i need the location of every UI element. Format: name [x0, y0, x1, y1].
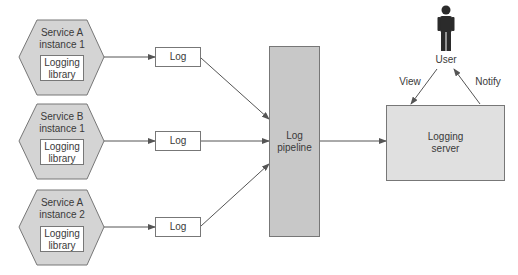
library-1-line2: library: [41, 69, 83, 81]
arrow-log1-pipeline: [201, 58, 269, 119]
service-1-title-line1: Service A: [19, 27, 105, 39]
log-pipeline-label: Log pipeline: [270, 130, 319, 154]
logging-library-box-2: Logging library: [40, 139, 84, 165]
user-icon: [438, 6, 455, 52]
logging-library-box-3: Logging library: [40, 226, 84, 252]
logging-library-box-1: Logging library: [40, 55, 84, 81]
view-label: View: [395, 76, 425, 88]
log-box-1: Log: [155, 47, 201, 67]
server-line2: server: [387, 143, 504, 155]
log-box-2: Log: [155, 131, 201, 151]
service-2-title: Service B instance 1: [19, 111, 105, 135]
pipeline-line2: pipeline: [270, 142, 319, 154]
service-2-title-line2: instance 1: [19, 123, 105, 135]
service-1-title: Service A instance 1: [19, 27, 105, 51]
notify-label: Notify: [468, 76, 508, 88]
library-3-line2: library: [41, 240, 83, 252]
service-2-title-line1: Service B: [19, 111, 105, 123]
library-1-line1: Logging: [41, 57, 83, 69]
service-3-title-line2: instance 2: [19, 209, 105, 221]
pipeline-line1: Log: [270, 130, 319, 142]
server-line1: Logging: [387, 131, 504, 143]
library-2-line1: Logging: [41, 141, 83, 153]
service-3-title-line1: Service A: [19, 197, 105, 209]
logging-server-label: Logging server: [387, 131, 504, 155]
library-3-line1: Logging: [41, 228, 83, 240]
service-1-title-line2: instance 1: [19, 39, 105, 51]
arrow-log3-pipeline: [201, 164, 269, 226]
log-pipeline: Log pipeline: [269, 46, 320, 237]
log-box-3: Log: [155, 217, 201, 237]
user-label: User: [426, 54, 466, 66]
logging-server: Logging server: [386, 105, 505, 181]
library-2-line2: library: [41, 153, 83, 165]
service-3-title: Service A instance 2: [19, 197, 105, 221]
